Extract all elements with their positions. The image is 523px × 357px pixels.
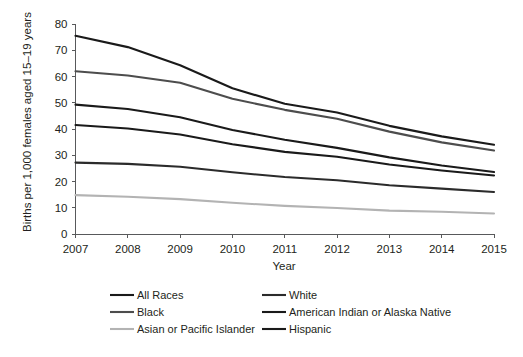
legend-label-white: White [289, 289, 317, 301]
y-tick-label: 60 [55, 71, 68, 83]
y-tick-label: 30 [55, 149, 68, 161]
series-line-asian-or-pacific-islander [76, 195, 495, 213]
teen-birth-rate-line-chart: Births per 1,000 females aged 15–19 year… [0, 0, 523, 357]
series-line-white [76, 163, 495, 192]
legend-item-white[interactable]: White [262, 289, 317, 301]
legend-label-black: Black [137, 306, 164, 318]
series-line-american-indian-or-alaska-native [76, 36, 495, 145]
legend-item-black[interactable]: Black [110, 306, 164, 318]
y-tick-label: 40 [55, 123, 68, 135]
x-axis-ticks: 200720082009201020112012201320142015 [63, 234, 507, 255]
chart-legend: All RacesWhiteBlackAmerican Indian or Al… [110, 289, 451, 335]
x-tick-label: 2013 [377, 243, 403, 255]
x-tick-label: 2011 [272, 243, 297, 255]
legend-label-american-indian-or-alaska-native: American Indian or Alaska Native [289, 306, 451, 318]
y-tick-label: 0 [61, 228, 67, 240]
y-tick-label: 80 [55, 18, 68, 30]
x-tick-label: 2015 [481, 243, 507, 255]
y-tick-label: 70 [55, 44, 68, 56]
legend-item-all-races[interactable]: All Races [110, 289, 184, 301]
legend-label-asian-or-pacific-islander: Asian or Pacific Islander [137, 323, 255, 335]
x-tick-label: 2010 [220, 243, 246, 255]
legend-item-american-indian-or-alaska-native[interactable]: American Indian or Alaska Native [262, 306, 451, 318]
y-axis-title: Births per 1,000 females aged 15–19 year… [21, 12, 33, 232]
x-tick-label: 2009 [167, 243, 193, 255]
x-axis-title: Year [272, 260, 295, 272]
x-tick-label: 2007 [63, 243, 89, 255]
y-tick-label: 20 [55, 176, 68, 188]
y-axis-ticks: 01020304050607080 [55, 18, 76, 240]
chart-canvas: Births per 1,000 females aged 15–19 year… [0, 0, 523, 357]
series-line-all-races [76, 125, 495, 175]
legend-item-hispanic[interactable]: Hispanic [262, 323, 332, 335]
legend-item-asian-or-pacific-islander[interactable]: Asian or Pacific Islander [110, 323, 255, 335]
y-tick-label: 50 [55, 97, 68, 109]
series-line-hispanic [76, 105, 495, 172]
y-tick-label: 10 [55, 202, 68, 214]
x-tick-label: 2008 [115, 243, 141, 255]
x-tick-label: 2014 [429, 243, 455, 255]
x-tick-label: 2012 [324, 243, 350, 255]
data-series-group [76, 36, 495, 214]
legend-label-all-races: All Races [137, 289, 184, 301]
legend-label-hispanic: Hispanic [289, 323, 332, 335]
